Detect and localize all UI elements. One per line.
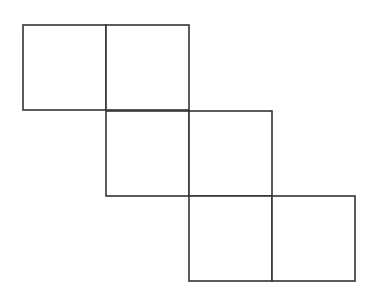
net-square-2	[106, 25, 189, 110]
net-square-6	[272, 196, 355, 281]
net-square-3	[106, 111, 189, 196]
cube-net-diagram	[0, 0, 370, 289]
net-square-1	[23, 25, 106, 110]
net-square-5	[189, 196, 272, 281]
net-square-4	[189, 111, 272, 196]
